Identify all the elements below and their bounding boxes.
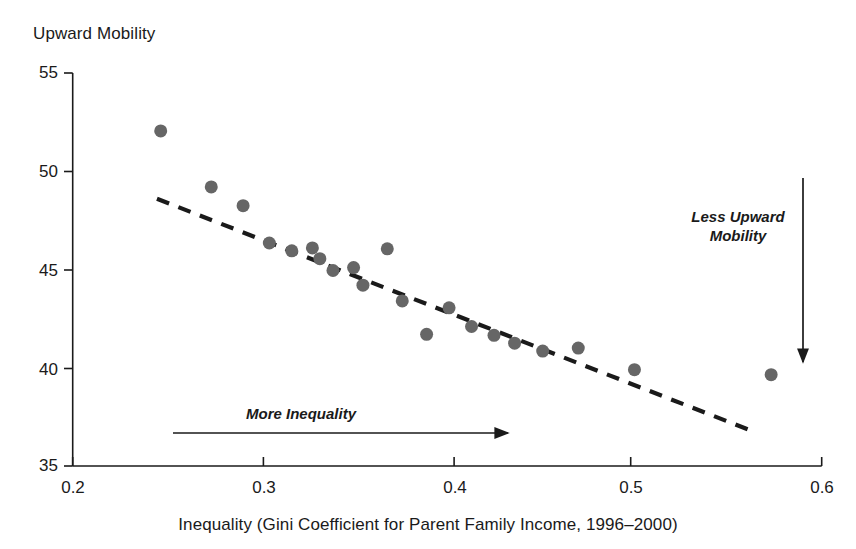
data-point — [285, 244, 298, 257]
x-axis-ticks — [73, 457, 822, 466]
data-point — [465, 320, 478, 333]
data-point — [154, 124, 167, 137]
data-point — [420, 328, 433, 341]
data-points-group — [154, 124, 777, 381]
data-point — [508, 337, 521, 350]
data-point — [356, 279, 369, 292]
data-point — [205, 180, 218, 193]
data-point — [765, 368, 778, 381]
scatter-plot-canvas — [0, 0, 856, 549]
chart-figure: Upward Mobility 55 50 45 40 35 0.2 0.3 0… — [0, 0, 856, 549]
data-point — [572, 342, 585, 355]
data-point — [396, 294, 409, 307]
data-point — [326, 264, 339, 277]
data-point — [237, 199, 250, 212]
data-point — [628, 363, 641, 376]
data-point — [306, 241, 319, 254]
y-axis-ticks — [64, 73, 73, 466]
data-point — [443, 301, 456, 314]
data-point — [381, 242, 394, 255]
data-point — [347, 261, 360, 274]
data-point — [488, 329, 501, 342]
axis-lines — [73, 73, 822, 466]
data-point — [263, 236, 276, 249]
data-point — [313, 252, 326, 265]
trend-line — [157, 199, 756, 433]
data-point — [536, 345, 549, 358]
